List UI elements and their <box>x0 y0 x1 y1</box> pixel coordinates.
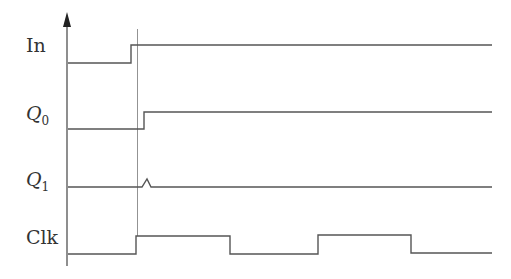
signal-label-q0: Q0 <box>26 102 49 128</box>
signal-label-q1: Q1 <box>26 168 49 194</box>
waveform-q1 <box>68 179 492 187</box>
signal-label-clk: Clk <box>26 226 59 248</box>
waveform-clk <box>68 235 492 254</box>
timing-diagram: In Q0 Q1 Clk <box>0 0 511 279</box>
signal-label-in: In <box>26 34 46 56</box>
waveform-q0 <box>68 112 492 129</box>
axis-arrow-icon <box>63 12 71 27</box>
waveform-in <box>68 45 492 63</box>
